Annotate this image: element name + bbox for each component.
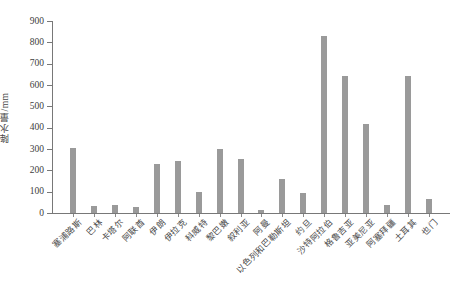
y-axis-tick-label: 800 [30,36,44,48]
y-axis-tick: 400 [47,128,52,129]
bar [196,192,202,213]
y-axis-tick: 900 [47,21,52,22]
bar [70,148,76,213]
bar [300,193,306,213]
bar [342,76,348,213]
y-axis-tick-label: 700 [30,57,44,69]
bar [258,210,264,213]
x-axis-category-label: 卡塔尔 [100,218,126,244]
y-axis-tick: 200 [47,170,52,171]
y-axis-tick-label: 0 [39,207,44,219]
x-axis-labels: 塞浦路斯巴林卡塔尔阿联酋伊朗伊拉克科威特黎巴嫩叙利亚阿曼以色列和巴勒斯坦约旦沙特… [52,214,461,302]
x-axis-category-label: 塞浦路斯 [51,218,83,250]
y-axis-tick-label: 500 [30,100,44,112]
y-axis-tick-label: 600 [30,79,44,91]
y-axis-tick: 700 [47,64,52,65]
y-axis-label: 降水量/mm [0,78,14,158]
y-axis-tick-label: 900 [30,15,44,27]
x-axis-category-label: 伊拉克 [163,218,189,244]
precipitation-bar-chart: 降水量/mm 0100200300400500600700800900 塞浦路斯… [0,0,461,302]
y-axis-tick-label: 300 [30,143,44,155]
y-axis-tick: 100 [47,192,52,193]
bar [384,205,390,213]
y-axis-tick: 800 [47,42,52,43]
bar [217,149,223,213]
bar [238,159,244,213]
x-axis-category-label: 也门 [420,218,440,238]
bar [112,205,118,213]
x-axis-category-label: 阿联酋 [121,218,147,244]
y-axis-tick: 600 [47,85,52,86]
bar [405,76,411,213]
bar [91,206,97,213]
x-axis-category-label: 科威特 [184,218,210,244]
y-axis-tick: 300 [47,149,52,150]
plot-area: 0100200300400500600700800900 [52,21,450,214]
x-axis-category-label: 叙利亚 [225,218,251,244]
y-axis-tick: 500 [47,106,52,107]
bar [154,164,160,213]
y-axis-tick-label: 100 [30,185,44,197]
bar [321,36,327,213]
bar [279,179,285,213]
bar [133,207,139,213]
y-axis-tick-label: 200 [30,164,44,176]
bar [363,124,369,213]
x-axis-category-label: 土耳其 [393,218,419,244]
x-axis-category-label: 黎巴嫩 [204,218,230,244]
y-axis-line [52,21,53,214]
bar [175,161,181,213]
y-axis-tick-label: 400 [30,121,44,133]
bar [426,199,432,213]
